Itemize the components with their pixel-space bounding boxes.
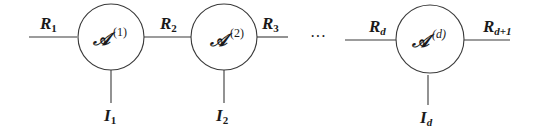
label-r2: R2 [159,14,177,34]
node-core-2: 𝒜 (2) [191,4,257,70]
label-id: Id [419,108,433,128]
core-circle [396,5,464,73]
label-r3: R3 [261,14,279,34]
label-i2: I2 [215,106,229,126]
core-superscript: (1) [113,25,127,39]
label-rd1: Rd+1 [482,17,512,37]
core-superscript: (d) [432,27,446,41]
label-r1: R1 [39,14,57,34]
ellipsis: ··· [310,28,326,45]
label-i1: I1 [103,106,116,126]
core-circle [78,4,144,70]
label-rd: Rd [368,17,386,37]
node-core-1: 𝒜 (1) [78,4,144,70]
node-core-d: 𝒜 (d) [396,5,464,73]
core-superscript: (2) [230,26,244,40]
tensor-train-diagram: 𝒜 (1) 𝒜 (2) 𝒜 (d) R1 R2 R3 Rd Rd+1 ··· I… [0,0,547,137]
